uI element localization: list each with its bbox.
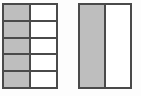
cell-unshaded — [31, 5, 56, 20]
cell-shaded — [80, 5, 106, 87]
fraction-model-right — [78, 3, 132, 89]
cell-unshaded — [31, 55, 56, 70]
table-row — [4, 55, 56, 72]
cell-unshaded — [31, 22, 56, 37]
cell-shaded — [4, 22, 31, 37]
table-row — [4, 72, 56, 87]
cell-shaded — [4, 5, 31, 20]
cell-shaded — [4, 39, 31, 54]
table-row — [4, 22, 56, 39]
fraction-model-left — [2, 3, 58, 89]
cell-unshaded — [31, 72, 56, 87]
cell-unshaded — [106, 5, 130, 87]
figure-canvas — [0, 0, 141, 96]
cell-unshaded — [31, 39, 56, 54]
cell-shaded — [4, 55, 31, 70]
cell-shaded — [4, 72, 31, 87]
table-row — [4, 39, 56, 56]
table-row — [4, 5, 56, 22]
